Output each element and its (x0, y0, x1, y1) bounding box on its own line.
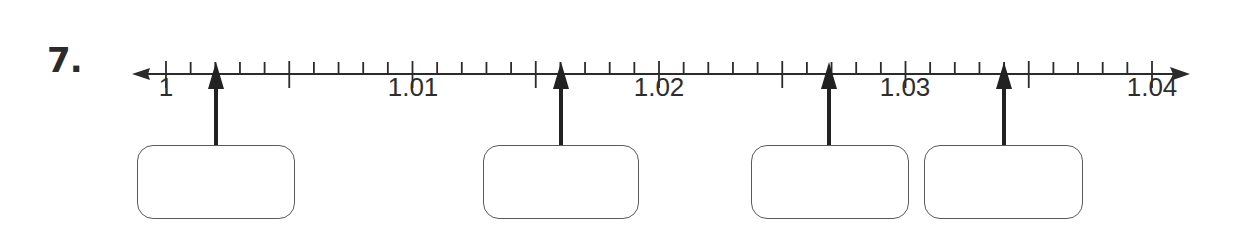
tick-label: 1.01 (388, 72, 439, 103)
answer-box-3[interactable] (751, 145, 909, 219)
arrow-up-icon (553, 62, 569, 89)
tick-label: 1.04 (1127, 72, 1178, 103)
tick-label: 1.03 (880, 72, 931, 103)
left-arrowhead-icon (132, 68, 150, 80)
arrow-up-icon (996, 62, 1012, 89)
arrow-up-icon (821, 62, 837, 89)
answer-box-2[interactable] (483, 145, 639, 219)
tick-label: 1 (159, 72, 173, 103)
answer-box-1[interactable] (137, 145, 295, 219)
arrow-up-icon (208, 62, 224, 89)
tick-label: 1.02 (634, 72, 685, 103)
answer-box-4[interactable] (924, 145, 1083, 219)
